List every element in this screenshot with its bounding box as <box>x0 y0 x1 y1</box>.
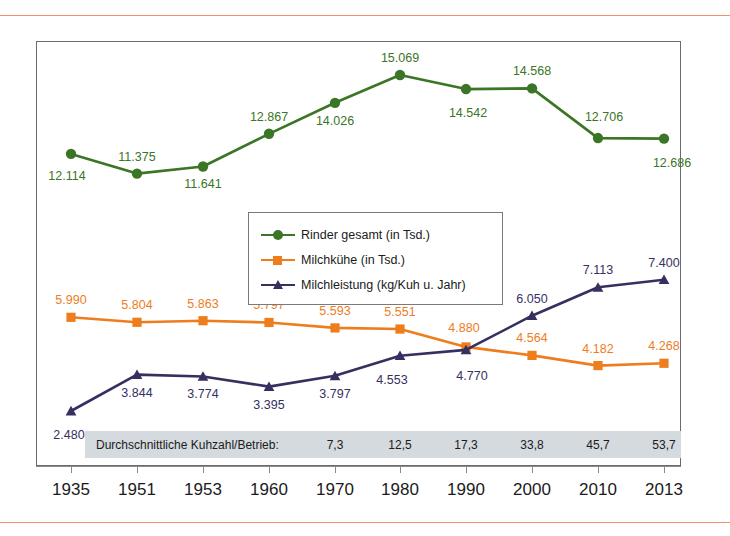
series-0-marker <box>461 84 471 94</box>
value-label-s0-3: 12.867 <box>250 111 288 124</box>
series-0-marker <box>198 161 208 171</box>
value-label-s2-4: 3.797 <box>319 388 350 401</box>
series-1-marker <box>527 351 536 360</box>
legend-item-milchkuehe: Milchkühe (in Tsd.) <box>249 247 502 272</box>
value-label-s2-5: 4.553 <box>376 374 407 387</box>
value-label-s2-0: 2.480 <box>53 429 84 442</box>
kuhzahl-value-4: 7,3 <box>327 438 344 452</box>
x-tick-1990 <box>466 466 467 473</box>
x-year-label-1951: 1951 <box>118 480 156 500</box>
value-label-s0-6: 14.542 <box>449 107 487 120</box>
bottom-divider-rule <box>0 522 730 523</box>
x-tick-1953 <box>203 466 204 473</box>
series-0-marker <box>395 70 405 80</box>
series-1-marker <box>330 323 339 332</box>
top-divider-rule <box>0 15 730 16</box>
value-label-s0-4: 14.026 <box>316 115 354 128</box>
value-label-s2-6: 4.770 <box>456 370 487 383</box>
series-0-marker <box>659 133 669 143</box>
value-label-s1-4: 5.593 <box>319 305 350 318</box>
x-tick-1960 <box>269 466 270 473</box>
series-1-marker <box>659 359 668 368</box>
chart-plot-frame: 12.11411.37511.64112.86714.02615.06914.5… <box>36 41 681 466</box>
value-label-s1-5: 5.551 <box>384 306 415 319</box>
value-label-s0-1: 11.375 <box>118 151 155 164</box>
x-tick-1951 <box>137 466 138 473</box>
value-label-s1-7: 4.564 <box>516 332 547 345</box>
series-0-marker <box>593 133 603 143</box>
value-label-s1-1: 5.804 <box>121 299 152 312</box>
value-label-s0-2: 11.641 <box>184 178 221 191</box>
value-label-s0-7: 14.568 <box>513 65 551 78</box>
legend-key-circle-icon <box>261 228 295 242</box>
x-tick-1980 <box>400 466 401 473</box>
kuhzahl-value-8: 45,7 <box>586 438 609 452</box>
kuhzahl-value-6: 17,3 <box>454 438 477 452</box>
legend-item-milchleistung: Milchleistung (kg/Kuh u. Jahr) <box>249 272 502 297</box>
x-tick-2013 <box>664 466 665 473</box>
series-0-marker <box>132 168 142 178</box>
series-0-marker <box>527 83 537 93</box>
x-year-label-2010: 2010 <box>579 480 617 500</box>
series-2-marker <box>66 406 77 416</box>
legend-item-rinder: Rinder gesamt (in Tsd.) <box>249 222 502 247</box>
series-1-marker <box>264 318 273 327</box>
x-year-label-1980: 1980 <box>381 480 419 500</box>
x-year-label-1935: 1935 <box>52 480 90 500</box>
series-0-marker <box>264 129 274 139</box>
series-1-marker <box>593 361 602 370</box>
chart-page: 12.11411.37511.64112.86714.02615.06914.5… <box>0 0 730 536</box>
x-year-label-2013: 2013 <box>645 480 683 500</box>
x-year-label-1990: 1990 <box>447 480 485 500</box>
value-label-s1-0: 5.990 <box>55 294 86 307</box>
x-year-label-1953: 1953 <box>184 480 222 500</box>
value-label-s0-9: 12.686 <box>653 157 691 170</box>
value-label-s2-3: 3.395 <box>253 399 284 412</box>
series-0-marker <box>330 98 340 108</box>
kuhzahl-value-5: 12,5 <box>388 438 411 452</box>
kuhzahl-summary-bar: Durchschnittliche Kuhzahl/Betrieb: 7,312… <box>85 431 681 458</box>
x-tick-2010 <box>598 466 599 473</box>
legend-key-square-icon <box>261 253 295 267</box>
legend-label-milchkuehe: Milchkühe (in Tsd.) <box>301 253 405 267</box>
value-label-s1-8: 4.182 <box>582 343 613 356</box>
value-label-s1-9: 4.268 <box>648 340 679 353</box>
legend-label-rinder: Rinder gesamt (in Tsd.) <box>301 228 430 242</box>
kuhzahl-label: Durchschnittliche Kuhzahl/Betrieb: <box>96 438 279 452</box>
value-label-s1-6: 4.880 <box>448 322 479 335</box>
series-1-marker <box>66 313 75 322</box>
legend-label-milchleistung: Milchleistung (kg/Kuh u. Jahr) <box>301 278 466 292</box>
value-label-s2-1: 3.844 <box>121 387 152 400</box>
x-tick-1970 <box>335 466 336 473</box>
value-label-s0-0: 12.114 <box>48 170 85 183</box>
value-label-s2-7: 6.050 <box>516 293 547 306</box>
x-tick-1935 <box>71 466 72 473</box>
value-label-s2-8: 7.113 <box>583 264 613 277</box>
value-label-s0-8: 12.706 <box>585 111 623 124</box>
kuhzahl-value-9: 53,7 <box>652 438 675 452</box>
x-year-label-1970: 1970 <box>316 480 354 500</box>
value-label-s2-2: 3.774 <box>187 388 218 401</box>
value-label-s2-9: 7.400 <box>648 257 679 270</box>
series-line-0 <box>71 75 664 174</box>
x-year-label-2000: 2000 <box>513 480 551 500</box>
x-year-label-1960: 1960 <box>250 480 288 500</box>
series-1-marker <box>198 316 207 325</box>
legend-key-triangle-icon <box>261 278 295 292</box>
kuhzahl-value-7: 33,8 <box>520 438 543 452</box>
value-label-s1-2: 5.863 <box>187 298 218 311</box>
chart-legend: Rinder gesamt (in Tsd.) Milchkühe (in Ts… <box>248 212 503 305</box>
value-label-s0-5: 15.069 <box>381 52 419 65</box>
series-1-marker <box>132 318 141 327</box>
series-line-1 <box>71 317 664 365</box>
series-1-marker <box>395 324 404 333</box>
series-0-marker <box>66 149 76 159</box>
x-axis-line <box>36 466 681 467</box>
x-tick-2000 <box>532 466 533 473</box>
